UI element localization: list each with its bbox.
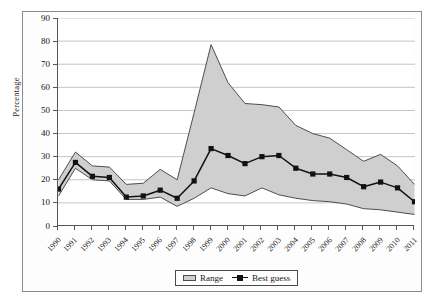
- y-tick-label: 30: [20, 152, 50, 161]
- range-swatch-icon: [183, 275, 196, 281]
- y-tick-label: 50: [20, 106, 50, 115]
- x-tick-mark: [159, 226, 160, 230]
- y-tick-label: 0: [20, 222, 50, 231]
- x-tick-mark: [91, 226, 92, 230]
- legend-item-best-guess: Best guess: [232, 273, 290, 283]
- x-tick-mark: [362, 226, 363, 230]
- y-axis-title: Percentage: [11, 57, 21, 137]
- y-tick-label: 90: [20, 14, 50, 23]
- x-tick-mark: [193, 226, 194, 230]
- y-tick-label: 10: [20, 198, 50, 207]
- x-tick-mark: [311, 226, 312, 230]
- x-tick-mark: [277, 226, 278, 230]
- legend-label-range: Range: [200, 273, 223, 283]
- plot-svg: [58, 18, 415, 226]
- x-tick-mark: [57, 226, 58, 230]
- x-tick-mark: [176, 226, 177, 230]
- x-tick-mark: [227, 226, 228, 230]
- x-tick-mark: [108, 226, 109, 230]
- x-tick-mark: [243, 226, 244, 230]
- x-tick-mark: [142, 226, 143, 230]
- y-tick-label: 60: [20, 83, 50, 92]
- legend-item-range: Range: [183, 273, 223, 283]
- plot-area: [57, 18, 414, 226]
- x-tick-mark: [345, 226, 346, 230]
- x-tick-mark: [294, 226, 295, 230]
- y-tick-label: 40: [20, 129, 50, 138]
- best-guess-swatch-icon: [232, 274, 248, 281]
- x-tick-mark: [328, 226, 329, 230]
- y-tick-label: 80: [20, 37, 50, 46]
- x-tick-mark: [125, 226, 126, 230]
- x-tick-mark: [413, 226, 414, 230]
- x-tick-mark: [74, 226, 75, 230]
- chart-figure: Percentage 0102030405060708090 199019911…: [0, 0, 430, 302]
- y-tick-label: 20: [20, 175, 50, 184]
- x-tick-mark: [260, 226, 261, 230]
- x-tick-mark: [396, 226, 397, 230]
- x-tick-mark: [379, 226, 380, 230]
- x-tick-mark: [210, 226, 211, 230]
- legend-label-best-guess: Best guess: [252, 273, 290, 283]
- y-tick-label: 70: [20, 60, 50, 69]
- chart-legend: Range Best guess: [175, 270, 298, 286]
